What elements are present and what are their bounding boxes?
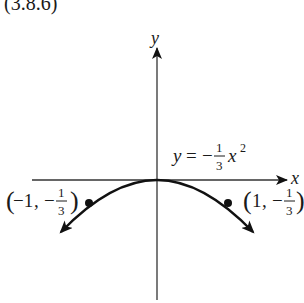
svg-text:−: − xyxy=(44,190,55,211)
svg-text:3: 3 xyxy=(216,158,223,173)
svg-text:3: 3 xyxy=(58,203,65,218)
figure-label: (3.8.6) xyxy=(4,0,57,15)
y-axis-label: y xyxy=(149,28,159,48)
svg-text:1: 1 xyxy=(286,185,293,200)
point-right-dot xyxy=(224,199,232,207)
svg-text:): ) xyxy=(296,186,304,215)
parabola-curve-right xyxy=(157,180,253,232)
point-right-label: ( 1 , − 1 3 ) xyxy=(243,185,304,218)
svg-text:(: ( xyxy=(243,186,252,215)
svg-text:1: 1 xyxy=(216,140,223,155)
svg-text:−: − xyxy=(272,190,283,211)
svg-text:=: = xyxy=(186,145,197,166)
svg-text:−: − xyxy=(202,145,213,166)
svg-text:x: x xyxy=(227,145,237,166)
point-left-label: ( −1 , − 1 3 ) xyxy=(6,185,79,218)
equation-label: y = − 1 3 x 2 xyxy=(171,140,246,173)
svg-text:2: 2 xyxy=(240,141,246,155)
svg-text:1: 1 xyxy=(58,185,65,200)
svg-text:−1: −1 xyxy=(13,190,33,211)
svg-text:,: , xyxy=(34,190,39,211)
svg-text:y: y xyxy=(171,145,182,166)
svg-text:,: , xyxy=(262,190,267,211)
point-left-dot xyxy=(85,199,93,207)
svg-text:1: 1 xyxy=(252,190,262,211)
parabola-diagram: (3.8.6) y x y = − 1 3 x 2 ( −1 , − 1 3 )… xyxy=(0,0,304,303)
svg-text:3: 3 xyxy=(286,203,293,218)
svg-text:): ) xyxy=(70,186,79,215)
